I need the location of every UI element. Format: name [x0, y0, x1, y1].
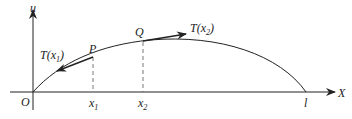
- point-p-label: P: [88, 42, 97, 56]
- origin-label: O: [21, 95, 30, 109]
- endpoint-l-label: l: [304, 96, 308, 110]
- x1-tick-label: x1: [88, 96, 98, 112]
- x2-tick-label: x2: [137, 96, 147, 112]
- string-tension-diagram: u X O P Q l x1 x2 T(x1) T(x2): [0, 0, 352, 119]
- string-curve: [33, 39, 306, 92]
- tension-x2-label: T(x2): [190, 21, 214, 37]
- tension-x1-label: T(x1): [40, 48, 64, 64]
- point-q-label: Q: [135, 25, 144, 39]
- u-axis-label: u: [30, 1, 36, 15]
- x-axis-label: X: [337, 86, 346, 100]
- tension-x2-arrow: [143, 34, 186, 41]
